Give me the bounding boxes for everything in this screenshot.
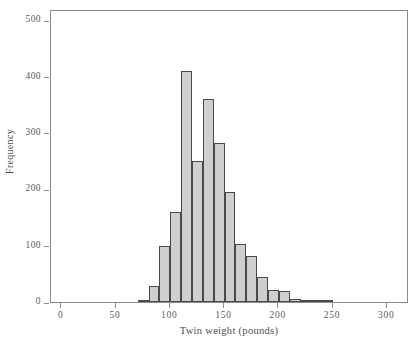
- histogram-bar: [181, 71, 192, 302]
- x-axis-tick-label: 150: [202, 310, 246, 320]
- x-axis-title: Twin weight (pounds): [50, 325, 408, 336]
- chart-title: [0, 0, 417, 3]
- x-axis-tick-label: 300: [364, 310, 408, 320]
- x-axis-tick-label: 100: [147, 310, 191, 320]
- x-axis-tick-label: 250: [310, 310, 354, 320]
- plot-frame: [50, 10, 408, 303]
- y-axis-tick-label: 100: [26, 240, 41, 250]
- x-axis-tick-mark: [277, 303, 278, 308]
- x-axis-tick-label: 200: [256, 310, 300, 320]
- x-axis-tick-mark: [332, 303, 333, 308]
- x-axis-tick-mark: [386, 303, 387, 308]
- x-axis-tick-mark: [60, 303, 61, 308]
- histogram-bar: [170, 212, 181, 302]
- y-axis-tick-label: 200: [26, 183, 41, 193]
- histogram-bar: [159, 246, 170, 302]
- histogram-bar: [235, 244, 246, 302]
- histogram-bar: [138, 300, 149, 302]
- histogram-bar: [192, 161, 203, 302]
- histogram-bar: [290, 299, 301, 302]
- x-axis-tick-label: 50: [93, 310, 137, 320]
- histogram-bar: [311, 300, 322, 302]
- y-axis-tick-mark: [44, 190, 49, 191]
- plot-area: [51, 11, 407, 302]
- histogram-bar: [214, 143, 225, 302]
- histogram-figure: Frequency 0100200300400500 0501001502002…: [0, 0, 417, 348]
- histogram-bar: [246, 256, 257, 302]
- y-axis-tick-mark: [44, 133, 49, 134]
- x-axis-tick-mark: [115, 303, 116, 308]
- histogram-bar: [149, 286, 160, 302]
- x-axis-tick-mark: [223, 303, 224, 308]
- histogram-bar: [268, 290, 279, 302]
- x-axis-tick-mark: [169, 303, 170, 308]
- y-axis-tick-mark: [44, 303, 49, 304]
- y-axis-tick-label: 0: [36, 296, 41, 306]
- y-axis-tick-label: 400: [26, 71, 41, 81]
- histogram-bar: [225, 192, 236, 302]
- histogram-bar: [301, 300, 312, 302]
- y-axis-tick-label: 500: [26, 14, 41, 24]
- histogram-bar: [322, 300, 333, 302]
- histogram-bar: [257, 277, 268, 302]
- y-axis-tick-mark: [44, 77, 49, 78]
- y-axis-title-text: Frequency: [4, 129, 15, 174]
- y-axis-tick-mark: [44, 246, 49, 247]
- y-axis-title: Frequency: [2, 0, 16, 303]
- histogram-bar: [203, 99, 214, 302]
- y-axis-tick-mark: [44, 21, 49, 22]
- y-axis-tick-label: 300: [26, 127, 41, 137]
- x-axis-tick-label: 0: [39, 310, 83, 320]
- histogram-bar: [279, 291, 290, 302]
